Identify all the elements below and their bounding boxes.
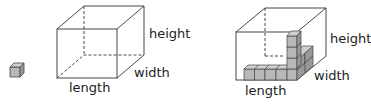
width-label-right: width [314,69,350,82]
unit-cubes-stack [244,31,313,80]
length-label-right: length [245,84,286,97]
empty-box [57,6,144,78]
width-label-left: width [134,66,170,79]
height-label-left: height [149,27,190,40]
unit-cube [10,63,24,77]
length-label-left: length [69,81,110,94]
height-label-right: height [330,32,371,45]
partially-filled-box [236,8,326,80]
